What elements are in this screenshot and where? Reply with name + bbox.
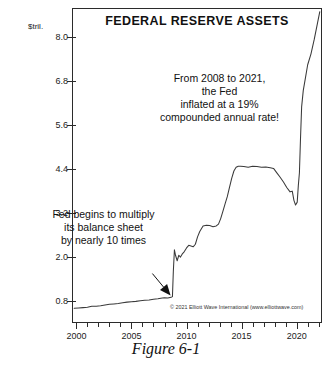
y-tick-label: 4.4 (28, 164, 68, 174)
x-tick-mark-minor (253, 323, 254, 327)
y-tick-label: 0.8 (28, 296, 68, 306)
x-tick-mark-minor (286, 323, 287, 327)
annotation-right-line-1: From 2008 to 2021, (132, 72, 307, 85)
x-tick-mark-minor (220, 323, 221, 327)
x-tick-mark-minor (87, 323, 88, 327)
x-tick-mark-minor (109, 323, 110, 327)
annotation-arrow (72, 8, 322, 323)
x-tick-mark-minor (165, 323, 166, 327)
annotation-right-line-3: inflated at a 19% (132, 98, 307, 111)
x-tick-mark-minor (264, 323, 265, 327)
x-tick-mark-minor (176, 323, 177, 327)
annotation-left-line-1: Fed begins to multiply (26, 208, 181, 221)
y-tick-label: 8.0 (28, 32, 68, 42)
arrow-shaft (152, 274, 163, 288)
x-tick-mark-major (187, 323, 188, 329)
annotation-left-line-2: its balance sheet (26, 221, 181, 234)
annotation-inflation-rate: From 2008 to 2021, the Fed inflated at a… (132, 72, 307, 124)
annotation-left-line-3: by nearly 10 times (26, 234, 181, 247)
y-axis-tick-labels: 8.06.85.64.43.22.00.8 (26, 0, 68, 368)
x-tick-mark-minor (319, 323, 320, 327)
x-tick-mark-minor (198, 323, 199, 327)
x-tick-mark-major (76, 323, 77, 329)
annotation-right-line-4: compounded annual rate! (132, 111, 307, 124)
annotation-balance-sheet: Fed begins to multiply its balance sheet… (26, 208, 181, 247)
x-tick-mark-minor (98, 323, 99, 327)
x-tick-mark-major (131, 323, 132, 329)
figure-caption: Figure 6-1 (0, 340, 332, 358)
x-tick-mark-minor (231, 323, 232, 327)
x-tick-mark-minor (209, 323, 210, 327)
x-tick-mark-major (297, 323, 298, 329)
arrow-head (160, 284, 171, 295)
x-tick-mark-major (242, 323, 243, 329)
y-tick-label: 6.8 (28, 76, 68, 86)
x-tick-mark-minor (153, 323, 154, 327)
x-tick-mark-minor (142, 323, 143, 327)
x-tick-mark-minor (275, 323, 276, 327)
y-tick-label: 5.6 (28, 120, 68, 130)
x-tick-mark-minor (308, 323, 309, 327)
x-tick-mark-minor (120, 323, 121, 327)
copyright-notice: © 2021 Elliott Wave International (www.e… (170, 304, 303, 310)
y-tick-label: 2.0 (28, 252, 68, 262)
annotation-right-line-2: the Fed (132, 85, 307, 98)
